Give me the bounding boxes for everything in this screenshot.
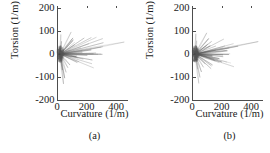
panel-caption-a: (a) [57,130,132,141]
y-ticklabel-a-2: 0 [49,49,54,60]
y-ticklabel-a-4: -200 [35,95,54,106]
x-axis-label-a: Curvature (1/m) [57,108,132,119]
x-axis-label-b: Curvature (1/m) [192,108,267,119]
y-ticklabel-b-2: 0 [184,49,189,60]
y-axis-label-a: Torsion (1/m) [9,0,23,72]
y-ticklabel-b-0: 200 [174,3,190,14]
data-series-b [192,8,263,100]
y-ticklabel-b-3: -100 [170,72,189,83]
figure-container: Torsion (1/m) 200 100 0 -100 -200 0 200 … [0,0,270,153]
y-ticklabel-a-0: 200 [39,3,55,14]
plot-area-a: 200 100 0 -100 -200 0 200 400 [57,8,128,100]
y-axis-label-b: Torsion (1/m) [144,0,158,72]
panel-a: Torsion (1/m) 200 100 0 -100 -200 0 200 … [0,0,135,153]
y-ticklabel-a-1: 100 [39,26,55,37]
y-ticklabel-b-4: -200 [170,95,189,106]
panel-b: Torsion (1/m) 200 100 0 -100 -200 0 200 … [135,0,270,153]
y-ticklabel-a-3: -100 [35,72,54,83]
plot-area-b: 200 100 0 -100 -200 0 200 400 [192,8,263,100]
data-series-a [57,8,128,100]
panel-caption-b: (b) [192,130,267,141]
y-ticklabel-b-1: 100 [174,26,190,37]
